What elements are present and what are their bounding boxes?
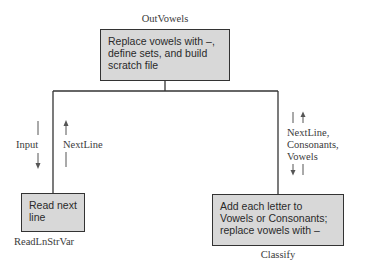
module-name-classify: Classify [212,249,344,260]
module-box-outvowels: Replace vowels with –, define sets, and … [100,29,230,81]
flow-label-classify-group: NextLine, Consonants, Vowels [287,127,339,163]
flow-label-consonants: Consonants, [287,139,339,151]
flow-label-nextline: NextLine [63,139,103,150]
module-name-readlnstrvar: ReadLnStrVar [14,236,74,247]
flow-label-input: Input [16,139,38,150]
module-description-classify: Add each letter to Vowels or Consonants;… [220,200,339,236]
module-description-readlnstrvar: Read next line [29,199,80,223]
flow-label-nextline-right: NextLine, [287,127,339,139]
module-box-classify: Add each letter to Vowels or Consonants;… [212,194,344,246]
module-description-outvowels: Replace vowels with –, define sets, and … [108,35,225,71]
flow-label-vowels: Vowels [287,151,339,163]
module-name-outvowels: OutVowels [112,13,218,24]
module-box-readlnstrvar: Read next line [21,193,85,232]
